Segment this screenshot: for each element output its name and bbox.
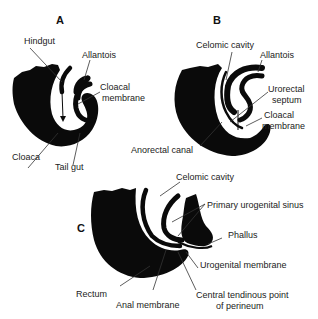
label-urorectal-septum-line1: Urorectal [268, 84, 305, 94]
panel-c-letter: C [77, 222, 85, 234]
label-central-tendinous-point-line1: Central tendinous point [196, 290, 289, 300]
label-celomic-cavity-b: Celomic cavity [196, 40, 254, 50]
label-anal-membrane: Anal membrane [116, 300, 180, 310]
label-primary-urogenital-sinus: Primary urogenital sinus [207, 200, 304, 210]
label-allantois-a: Allantois [82, 50, 116, 60]
label-phallus: Phallus [228, 230, 258, 240]
label-cloacal-membrane-a-line1: Cloacal [100, 82, 130, 92]
panel-a-letter: A [56, 14, 64, 26]
embryo-cloaca-diagram [0, 0, 318, 319]
panel-c-drawing [91, 188, 213, 278]
panel-b-drawing [175, 64, 271, 156]
label-urogenital-membrane: Urogenital membrane [200, 260, 287, 270]
label-hindgut: Hindgut [24, 36, 55, 46]
label-central-tendinous-point-line2: of perineum [216, 301, 264, 311]
panel-b-letter: B [213, 14, 221, 26]
label-anorectal-canal: Anorectal canal [131, 145, 193, 155]
label-cloacal-membrane-b-line1: Cloacal [264, 110, 294, 120]
label-cloacal-membrane-a-line2: membrane [102, 93, 145, 103]
label-celomic-cavity-c: Celomic cavity [176, 172, 234, 182]
label-allantois-b: Allantois [260, 50, 294, 60]
label-cloacal-membrane-b-line2: membrane [262, 121, 305, 131]
label-tail-gut: Tail gut [55, 162, 84, 172]
label-rectum: Rectum [76, 289, 107, 299]
label-cloaca: Cloaca [12, 152, 40, 162]
label-urorectal-septum-line2: septum [272, 95, 302, 105]
